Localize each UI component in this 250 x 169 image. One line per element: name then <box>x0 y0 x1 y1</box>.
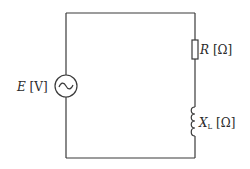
inductor-label-unit: [Ω] <box>216 116 235 130</box>
resistor-icon <box>192 40 198 59</box>
inductor-label-sub: L <box>208 123 213 131</box>
inductor-label: XL [Ω] <box>198 116 235 132</box>
source-label-var: E <box>16 80 26 94</box>
resistor-label-var: R <box>199 43 209 57</box>
source-label: E [V] <box>16 80 48 94</box>
resistor-label: R [Ω] <box>199 43 232 57</box>
inductor-label-var: X <box>198 116 208 130</box>
ac-source-icon <box>55 75 77 97</box>
resistor-label-unit: [Ω] <box>213 43 232 57</box>
source-label-unit: [V] <box>30 80 48 94</box>
inductor-icon <box>191 107 195 136</box>
circuit-diagram: E [V] R [Ω] XL [Ω] <box>0 0 250 169</box>
